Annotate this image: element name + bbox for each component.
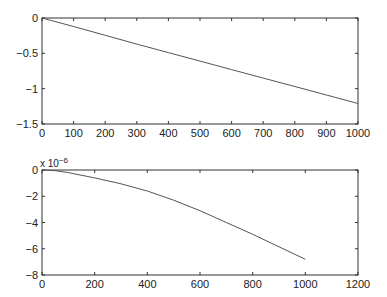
x-tick-label: 700 xyxy=(254,127,272,139)
x-tick-label: 500 xyxy=(191,127,209,139)
y-tick-label: −1.5 xyxy=(16,118,38,130)
x-tick-label: 800 xyxy=(243,278,261,290)
x-tick-label: 600 xyxy=(222,127,240,139)
y-tick-label: −6 xyxy=(25,243,38,255)
x-tick-label: 200 xyxy=(96,127,114,139)
plot-frame xyxy=(42,18,358,124)
y-tick-label: −0.5 xyxy=(16,47,38,59)
x-tick-label: 0 xyxy=(39,278,45,290)
x-tick-label: 200 xyxy=(85,278,103,290)
x-tick-label: 1200 xyxy=(346,278,370,290)
y-tick-label: 0 xyxy=(32,12,38,24)
y-tick-label: −4 xyxy=(25,217,38,229)
x-tick-label: 1000 xyxy=(346,127,370,139)
y-tick-label: −1 xyxy=(25,83,38,95)
x-tick-label: 400 xyxy=(159,127,177,139)
x-tick-label: 600 xyxy=(191,278,209,290)
plot-frame xyxy=(42,170,358,275)
figure: 010020030040050060070080090010000−0.5−1−… xyxy=(0,0,387,297)
x-tick-label: 100 xyxy=(64,127,82,139)
x-tick-label: 800 xyxy=(286,127,304,139)
x-tick-label: 400 xyxy=(138,278,156,290)
y-exponent-label: x 10−6 xyxy=(40,156,69,169)
bottom-chart: 0200400600800100012000−2−4−6−8x 10−6 xyxy=(25,156,370,290)
y-tick-label: 0 xyxy=(32,164,38,176)
x-tick-label: 0 xyxy=(39,127,45,139)
y-tick-label: −2 xyxy=(25,190,38,202)
top-chart: 010020030040050060070080090010000−0.5−1−… xyxy=(16,12,370,139)
y-tick-label: −8 xyxy=(25,269,38,281)
x-tick-label: 900 xyxy=(317,127,335,139)
x-tick-label: 300 xyxy=(128,127,146,139)
x-tick-label: 1000 xyxy=(293,278,317,290)
